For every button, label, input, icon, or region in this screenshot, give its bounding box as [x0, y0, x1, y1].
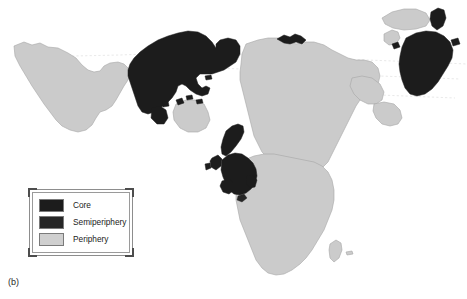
na-island-a	[205, 75, 212, 80]
legend-items: Core Semiperiphery Periphery	[39, 197, 126, 249]
small-island-east	[346, 251, 353, 255]
scandinavia-landmass	[221, 124, 244, 156]
legend-corner-bottom-left	[28, 248, 37, 257]
legend-swatch-core	[39, 199, 64, 212]
legend-corner-top-right	[125, 188, 134, 197]
legend-item-periphery: Periphery	[39, 231, 126, 247]
legend-label-semiperiphery: Semiperiphery	[73, 218, 127, 226]
madagascar-island	[329, 240, 342, 262]
na-peninsula-south	[151, 106, 168, 124]
iberia-landmass	[220, 179, 234, 194]
legend-corner-top-left	[28, 188, 37, 197]
british-isles-landmass	[210, 155, 222, 170]
figure-caption: (b)	[8, 277, 19, 287]
asia-landmass	[240, 38, 380, 174]
kamchatka-landmass	[430, 8, 446, 30]
na-island-c	[186, 95, 193, 100]
na-island-e	[162, 101, 169, 107]
core-island-east	[451, 38, 460, 46]
legend-label-core: Core	[73, 201, 91, 209]
japan-east-asia-landmass	[399, 31, 453, 96]
map-legend: Core Semiperiphery Periphery	[29, 189, 133, 256]
legend-label-periphery: Periphery	[73, 235, 109, 243]
legend-item-semiperiphery: Semiperiphery	[39, 214, 126, 230]
legend-item-core: Core	[39, 197, 126, 213]
ireland-island	[205, 163, 211, 170]
northeast-arc-landmass	[382, 9, 430, 30]
legend-corner-bottom-right	[125, 248, 134, 257]
figure-page: Core Semiperiphery Periphery (b)	[0, 0, 467, 299]
na-island-b	[196, 99, 203, 104]
legend-swatch-periphery	[39, 233, 64, 246]
legend-swatch-semiperiphery	[39, 216, 64, 229]
australia-landmass	[373, 102, 402, 126]
